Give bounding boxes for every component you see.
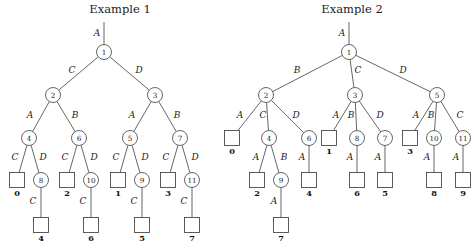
edge-label-example-2-d1-d5: D	[398, 65, 406, 75]
edge-label-example-1-c5-c9: D	[140, 152, 148, 162]
tree-leaf-number-example-1-3: 3	[165, 188, 171, 198]
tree-leaf-square-example-1-5[interactable]	[135, 218, 150, 233]
tree-node-number-example-1-9: 9	[140, 176, 145, 185]
tree-leaf-number-example-1-4: 4	[38, 233, 44, 243]
edge-label-example-1-c1-c2: C	[69, 65, 76, 75]
tree-edge-example-2-d1-d2	[273, 55, 343, 91]
edge-label-example-2-d7-t5: A	[374, 152, 382, 162]
tree-edge-example-2-d1-d3	[350, 59, 354, 87]
tree-diagram-svg: CDABABCDCDCDCDCCCCA123465781091102134657…	[0, 0, 475, 248]
tree-node-number-example-1-4: 4	[27, 134, 32, 143]
tree-edge-example-1-c6-c10	[81, 145, 89, 173]
tree-edge-example-1-c4-c8	[31, 145, 39, 173]
tree-leaf-square-example-2-6[interactable]	[350, 173, 365, 188]
edge-label-example-1-c2-c4: A	[26, 110, 34, 120]
tree-leaf-square-example-2-4[interactable]	[302, 173, 317, 188]
edge-label-example-1-c3-c5: A	[128, 110, 136, 120]
edge-label-example-1-c8-s4: C	[30, 196, 37, 206]
tree-leaf-number-example-2-5: 5	[382, 188, 388, 198]
edge-label-example-2-d5-d10: B	[427, 110, 435, 120]
tree-leaf-number-example-2-7: 7	[278, 233, 284, 243]
edge-label-example-1-c5-s1: C	[113, 152, 120, 162]
tree-node-number-example-1-3: 3	[153, 91, 158, 100]
tree-edge-example-1-c2-c4	[33, 102, 50, 132]
tree-node-number-example-1-2: 2	[51, 91, 56, 100]
tree-leaf-square-example-2-1[interactable]	[322, 131, 337, 146]
tree-leaf-square-example-2-8[interactable]	[427, 173, 442, 188]
tree-edge-example-2-d4-d9	[271, 145, 279, 173]
example-title-example-1: Example 1	[89, 2, 150, 16]
figure-canvas: CDABABCDCDCDCDCCCCA123465781091102134657…	[0, 0, 475, 248]
tree-node-number-example-1-8: 8	[39, 176, 44, 185]
edge-label-example-2-d5-d11: C	[457, 110, 464, 120]
tree-edge-example-1-c6-s2	[69, 145, 77, 172]
tree-edge-example-2-d2-d4	[267, 102, 269, 130]
edge-label-example-1-c4-s0: C	[12, 152, 19, 162]
tree-node-number-example-2-11: 11	[458, 134, 467, 143]
tree-leaf-number-example-1-5: 5	[139, 233, 145, 243]
tree-edge-example-1-c4-s0	[19, 145, 27, 172]
tree-leaf-square-example-2-2[interactable]	[250, 173, 265, 188]
edge-label-example-2-d6-t4: A	[298, 152, 306, 162]
tree-leaf-square-example-1-2[interactable]	[60, 173, 75, 188]
tree-leaf-square-example-1-3[interactable]	[161, 173, 176, 188]
tree-node-number-example-1-1: 1	[102, 48, 107, 57]
tree-node-number-example-2-10: 10	[429, 134, 439, 143]
tree-leaf-number-example-2-2: 2	[254, 188, 260, 198]
edge-label-example-1-c7-s3: C	[163, 152, 170, 162]
edge-label-example-1-c1-c3: D	[134, 65, 142, 75]
tree-node-number-example-2-2: 2	[264, 91, 269, 100]
edge-label-example-2-d1-d2: B	[293, 65, 301, 75]
edge-label-example-1-c6-c10: D	[89, 152, 97, 162]
tree-leaf-number-example-1-2: 2	[64, 188, 70, 198]
root-stub-label-example-2: A	[338, 28, 346, 38]
tree-node-number-example-2-5: 5	[435, 91, 440, 100]
example-title-example-2: Example 2	[321, 2, 382, 16]
tree-leaf-number-example-2-6: 6	[354, 188, 360, 198]
edge-label-example-2-d5-t3: A	[412, 110, 420, 120]
edge-label-example-1-c11-s7: C	[181, 196, 188, 206]
tree-edge-example-1-c3-c5	[134, 101, 151, 131]
tree-leaf-square-example-2-5[interactable]	[378, 173, 393, 188]
tree-edge-example-1-c1-c2	[59, 57, 99, 90]
edge-label-example-1-c7-c11: D	[190, 152, 198, 162]
tree-leaf-number-example-2-9: 9	[460, 188, 466, 198]
edge-label-example-2-d2-d6: D	[291, 110, 299, 120]
tree-leaf-number-example-1-6: 6	[88, 233, 94, 243]
tree-edge-example-1-c7-s3	[170, 145, 178, 172]
edge-label-example-2-d4-t2: A	[252, 152, 260, 162]
tree-edge-example-2-d4-t2	[259, 145, 267, 172]
tree-node-number-example-1-11: 11	[187, 176, 196, 185]
edge-label-example-2-d3-d7: D	[375, 110, 383, 120]
tree-leaf-square-example-1-0[interactable]	[10, 173, 25, 188]
tree-leaf-square-example-1-4[interactable]	[34, 218, 49, 233]
tree-leaf-number-example-2-3: 3	[407, 146, 413, 156]
tree-node-number-example-2-6: 6	[307, 134, 312, 143]
edge-label-example-2-d4-d9: B	[280, 152, 288, 162]
tree-leaf-number-example-2-4: 4	[306, 188, 312, 198]
edge-label-example-2-d2-t0: A	[236, 110, 244, 120]
edge-label-example-2-d3-d8: B	[347, 110, 355, 120]
tree-leaf-number-example-2-1: 1	[326, 146, 332, 156]
edge-label-example-1-c2-c6: B	[71, 110, 79, 120]
tree-leaf-square-example-2-9[interactable]	[456, 173, 471, 188]
tree-leaf-square-example-1-1[interactable]	[111, 173, 126, 188]
edge-label-example-1-c3-c7: B	[173, 110, 181, 120]
tree-leaf-number-example-2-8: 8	[431, 188, 437, 198]
edge-label-example-1-c10-s6: C	[80, 196, 87, 206]
tree-leaf-square-example-2-7[interactable]	[274, 218, 289, 233]
tree-edge-example-2-d5-d10	[435, 102, 437, 130]
tree-edge-example-1-c5-s1	[120, 145, 128, 172]
tree-leaf-square-example-2-0[interactable]	[225, 131, 240, 146]
tree-node-number-example-1-5: 5	[128, 134, 133, 143]
tree-leaf-number-example-2-0: 0	[229, 146, 235, 156]
tree-node-number-example-1-7: 7	[178, 134, 183, 143]
tree-leaf-square-example-2-3[interactable]	[403, 131, 418, 146]
edge-label-example-2-d10-t8: A	[423, 152, 431, 162]
tree-node-number-example-2-7: 7	[383, 134, 388, 143]
edge-label-example-2-d8-t6: A	[346, 152, 354, 162]
root-stub-label-example-1: A	[93, 28, 101, 38]
edge-label-example-2-d9-t7: A	[270, 196, 278, 206]
tree-leaf-square-example-1-6[interactable]	[84, 218, 99, 233]
tree-leaf-square-example-1-7[interactable]	[185, 218, 200, 233]
